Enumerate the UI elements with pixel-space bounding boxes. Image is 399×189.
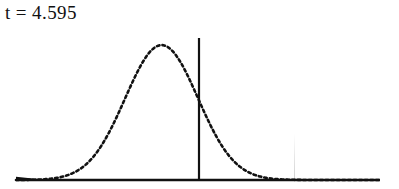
t-distribution-figure: t = 4.595 (0, 0, 399, 189)
distribution-plot (0, 0, 399, 189)
rejection-region-shaded-area (294, 133, 380, 180)
